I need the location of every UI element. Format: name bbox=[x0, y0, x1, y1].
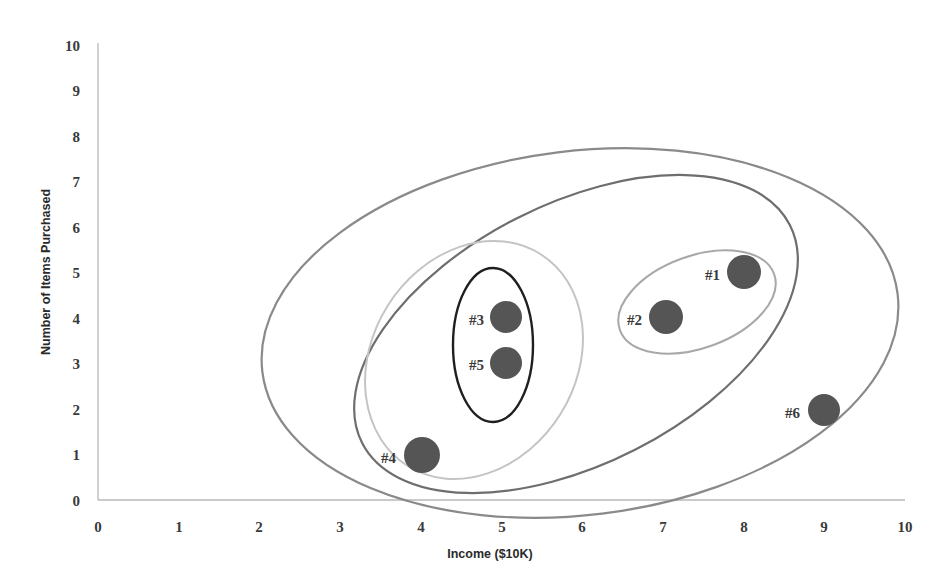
y-axis-title: Number of Items Purchased bbox=[39, 189, 53, 355]
x-tick-7: 7 bbox=[659, 519, 667, 535]
y-tick-10: 10 bbox=[65, 38, 80, 54]
y-tick-8: 8 bbox=[73, 129, 81, 145]
point-label-6: #6 bbox=[785, 405, 801, 421]
x-tick-3: 3 bbox=[336, 519, 344, 535]
data-point-1 bbox=[727, 255, 761, 289]
data-point-3 bbox=[490, 301, 522, 333]
x-tick-10: 10 bbox=[898, 519, 913, 535]
x-tick-4: 4 bbox=[417, 519, 425, 535]
x-axis-title: Income ($10K) bbox=[447, 547, 532, 561]
y-tick-6: 6 bbox=[73, 220, 81, 236]
x-tick-0: 0 bbox=[94, 519, 102, 535]
cluster-ellipses bbox=[240, 109, 920, 559]
y-tick-7: 7 bbox=[73, 174, 81, 190]
point-label-4: #4 bbox=[381, 450, 397, 466]
point-label-2: #2 bbox=[627, 312, 642, 328]
x-tick-1: 1 bbox=[175, 519, 183, 535]
point-label-3: #3 bbox=[469, 312, 484, 328]
x-tick-2: 2 bbox=[255, 519, 263, 535]
point-labels: #1 #2 #3 #5 #4 #6 bbox=[381, 267, 801, 466]
data-point-4 bbox=[404, 437, 440, 473]
y-tick-5: 5 bbox=[73, 265, 81, 281]
y-tick-labels: 0 1 2 3 4 5 6 7 8 9 10 bbox=[65, 38, 81, 509]
outer-cluster-ellipse bbox=[240, 113, 920, 552]
x-tick-8: 8 bbox=[740, 519, 748, 535]
data-point-5 bbox=[490, 347, 522, 379]
middle-cluster-ellipse bbox=[303, 109, 849, 559]
cluster-scatter-chart: 0 1 2 3 4 5 6 7 8 9 10 0 1 2 3 4 5 6 7 8… bbox=[0, 0, 950, 588]
point-label-5: #5 bbox=[469, 357, 484, 373]
data-point-6 bbox=[808, 394, 840, 426]
x-tick-labels: 0 1 2 3 4 5 6 7 8 9 10 bbox=[94, 519, 912, 535]
point-label-1: #1 bbox=[705, 267, 720, 283]
y-tick-0: 0 bbox=[73, 493, 81, 509]
x-tick-6: 6 bbox=[578, 519, 586, 535]
y-tick-9: 9 bbox=[73, 83, 81, 99]
inner-cluster-ellipse bbox=[453, 268, 533, 422]
y-tick-1: 1 bbox=[73, 447, 81, 463]
y-tick-3: 3 bbox=[73, 356, 81, 372]
x-tick-5: 5 bbox=[498, 519, 506, 535]
axes bbox=[98, 43, 905, 500]
data-point-2 bbox=[649, 300, 683, 334]
right-cluster-ellipse bbox=[604, 231, 790, 374]
y-tick-2: 2 bbox=[73, 402, 81, 418]
x-tick-9: 9 bbox=[820, 519, 828, 535]
y-tick-4: 4 bbox=[73, 311, 81, 327]
